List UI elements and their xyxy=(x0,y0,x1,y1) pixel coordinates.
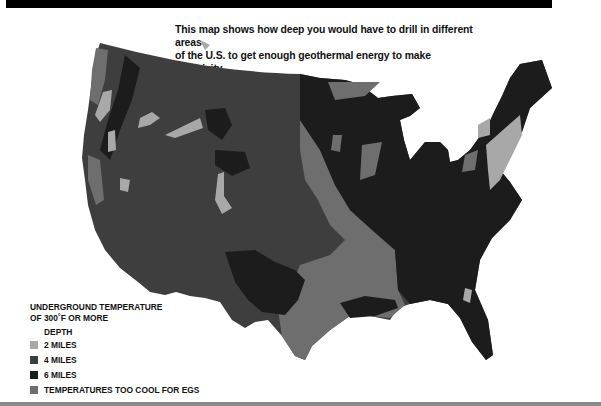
legend-item-too-cool: TEMPERATURES TOO COOL FOR EGS xyxy=(30,382,199,397)
map-legend: UNDERGROUND TEMPERATURE OF 300˚F OR MORE… xyxy=(30,302,199,397)
legend-label: 6 MILES xyxy=(44,370,77,380)
legend-label: 4 MILES xyxy=(44,355,77,365)
legend-label: TEMPERATURES TOO COOL FOR EGS xyxy=(44,385,199,395)
swatch-too-cool xyxy=(30,386,38,394)
swatch-6-miles xyxy=(30,371,38,379)
legend-item-2-miles: 2 MILES xyxy=(30,337,199,352)
swatch-4-miles xyxy=(30,356,38,364)
legend-depth-label: DEPTH xyxy=(44,327,199,337)
legend-item-4-miles: 4 MILES xyxy=(30,352,199,367)
legend-label: 2 MILES xyxy=(44,340,77,350)
bottom-border xyxy=(0,402,601,406)
legend-title-line-2: OF 300˚F OR MORE xyxy=(30,313,199,324)
legend-title-line-1: UNDERGROUND TEMPERATURE xyxy=(30,302,199,313)
swatch-2-miles xyxy=(30,341,38,349)
legend-item-6-miles: 6 MILES xyxy=(30,367,199,382)
